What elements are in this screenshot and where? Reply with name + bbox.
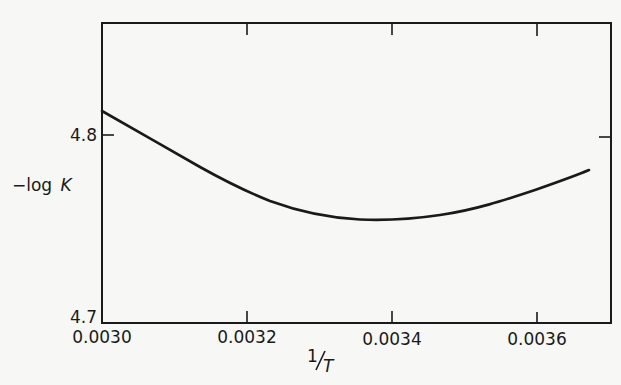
y-axis-label-var: K (61, 175, 74, 195)
chart: 4.8 4.7 0.0030 0.0032 0.0034 0.0036 −log… (0, 0, 621, 385)
data-curve (102, 111, 589, 220)
x-axis-label-num: 1 (307, 346, 318, 366)
ytick-label-4.7: 4.7 (70, 307, 97, 327)
ytick-label-4.8: 4.8 (70, 125, 97, 145)
plot-frame (102, 23, 611, 323)
xtick-label-0.0036: 0.0036 (507, 329, 566, 349)
x-axis-label-den: T (323, 356, 335, 376)
xtick-label-0.0032: 0.0032 (217, 327, 276, 347)
y-axis-label: −log K (12, 175, 74, 195)
y-axis-label-prefix: −log (12, 175, 52, 195)
x-axis-label: 1 T (307, 346, 335, 376)
top-ticks (247, 23, 537, 36)
bottom-ticks (247, 311, 537, 323)
xtick-label-0.0034: 0.0034 (362, 329, 421, 349)
xtick-label-0.0030: 0.0030 (72, 327, 131, 347)
